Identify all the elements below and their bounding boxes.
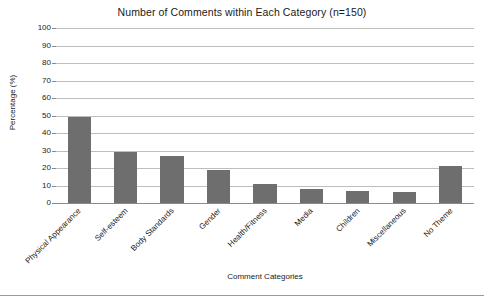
y-tick-label-40: 40 xyxy=(42,129,51,137)
x-label-slot: Body Standards xyxy=(149,203,195,269)
bar[interactable] xyxy=(68,117,91,203)
x-axis-category-labels: Physical AppearanceSelf-esteemBody Stand… xyxy=(56,203,474,269)
y-tick-label-30: 30 xyxy=(42,147,51,155)
x-label-slot: Media xyxy=(288,203,334,269)
x-axis-label: Gender xyxy=(198,207,223,232)
y-axis-title-text: Percentage (%) xyxy=(9,75,18,131)
x-axis-label: Media xyxy=(294,207,315,228)
y-tick-label-90: 90 xyxy=(42,42,51,50)
bar-slot xyxy=(288,28,334,203)
y-tick-label-0: 0 xyxy=(47,199,51,207)
x-axis-label: Physical Appearance xyxy=(24,207,82,265)
bar-slot xyxy=(102,28,148,203)
bar-slot xyxy=(56,28,102,203)
bar-slot xyxy=(335,28,381,203)
chart-title: Number of Comments within Each Category … xyxy=(0,6,484,18)
y-tick-label-50: 50 xyxy=(42,112,51,120)
bar-slot xyxy=(381,28,427,203)
bar[interactable] xyxy=(300,189,323,203)
bar[interactable] xyxy=(439,166,462,203)
bars-container xyxy=(56,28,474,203)
bar[interactable] xyxy=(253,184,276,203)
y-tick-label-60: 60 xyxy=(42,94,51,102)
bar-slot xyxy=(195,28,241,203)
y-tick-label-20: 20 xyxy=(42,164,51,172)
bar[interactable] xyxy=(346,191,369,203)
bar[interactable] xyxy=(207,170,230,203)
bar[interactable] xyxy=(160,156,183,203)
y-tick-label-70: 70 xyxy=(42,77,51,85)
bar[interactable] xyxy=(114,152,137,203)
bar[interactable] xyxy=(393,192,416,203)
x-axis-label: Children xyxy=(335,207,362,234)
x-label-slot: Miscellaneous xyxy=(381,203,427,269)
x-axis-label: No Theme xyxy=(422,207,454,239)
y-tick-label-80: 80 xyxy=(42,59,51,67)
x-axis-title: Comment Categories xyxy=(56,272,474,281)
bar-slot xyxy=(242,28,288,203)
y-tick-label-100: 100 xyxy=(38,24,51,32)
x-label-slot: Health/Fitness xyxy=(242,203,288,269)
y-tick-label-10: 10 xyxy=(42,182,51,190)
x-label-slot: No Theme xyxy=(428,203,474,269)
y-axis-title: Percentage (%) xyxy=(6,0,20,205)
bar-slot xyxy=(428,28,474,203)
bar-chart-figure: Number of Comments within Each Category … xyxy=(0,0,484,296)
plot-area: 1009080706050403020100 xyxy=(56,28,474,203)
bar-slot xyxy=(149,28,195,203)
